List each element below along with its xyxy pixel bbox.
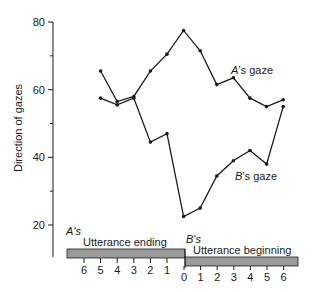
- y-tick-label: 20: [33, 219, 45, 231]
- x-tick-label: 0: [181, 271, 187, 283]
- x-tick-label: 4: [247, 271, 253, 283]
- y-tick-label: 60: [33, 84, 45, 96]
- data-point: [265, 162, 269, 166]
- data-point: [149, 69, 153, 73]
- y-axis: 20406080 Direction of gazes: [12, 16, 53, 257]
- utterance-timeline: A's Utterance ending B's Utterance begin…: [65, 225, 298, 283]
- b-segment-label: Utterance beginning: [193, 244, 291, 256]
- data-point: [232, 76, 236, 80]
- x-tick-label: 6: [281, 271, 287, 283]
- data-point: [248, 149, 252, 153]
- data-point: [115, 103, 119, 107]
- series-label-b-speaker: B: [235, 170, 242, 182]
- a-segment-label: Utterance ending: [83, 236, 167, 248]
- data-point: [115, 100, 119, 104]
- b-utterance-beginning-bar: [185, 257, 298, 266]
- gaze-direction-chart: 20406080 Direction of gazes A’s gaze B’s…: [0, 0, 315, 292]
- x-tick-label: 2: [147, 264, 153, 276]
- data-point: [198, 49, 202, 53]
- data-point: [165, 52, 169, 56]
- data-point: [132, 96, 136, 100]
- series-layer: [99, 29, 285, 219]
- data-point: [248, 96, 252, 100]
- x-tick-label: 4: [114, 264, 120, 276]
- x-tick-label: 6: [81, 264, 87, 276]
- data-point: [281, 105, 285, 109]
- data-point: [232, 159, 236, 163]
- data-point: [281, 98, 285, 102]
- x-tick-label: 3: [231, 271, 237, 283]
- x-tick-label: 2: [214, 271, 220, 283]
- data-point: [149, 140, 153, 144]
- data-point: [182, 215, 186, 219]
- series-label-a-rest: ’s gaze: [238, 64, 273, 76]
- b-gaze-line: [101, 98, 284, 216]
- x-tick-label: 5: [264, 271, 270, 283]
- x-tick-label: 1: [198, 271, 204, 283]
- data-point: [215, 83, 219, 87]
- a-speaker-label: A's: [65, 225, 81, 237]
- data-point: [265, 105, 269, 109]
- y-tick-label: 40: [33, 151, 45, 163]
- data-point: [165, 132, 169, 136]
- series-label-b-rest: ’s gaze: [242, 170, 277, 182]
- data-point: [215, 174, 219, 178]
- series-label-b: B’s gaze: [235, 170, 277, 182]
- series-label-a: A’s gaze: [230, 64, 273, 76]
- y-axis-title: Direction of gazes: [12, 83, 24, 172]
- data-point: [182, 29, 186, 33]
- data-point: [99, 69, 103, 73]
- x-tick-label: 5: [98, 264, 104, 276]
- series-label-a-speaker: A: [230, 64, 238, 76]
- x-tick-label: 3: [131, 264, 137, 276]
- data-point: [99, 96, 103, 100]
- data-point: [198, 206, 202, 210]
- x-tick-label: 1: [164, 264, 170, 276]
- y-tick-label: 80: [33, 16, 45, 28]
- a-utterance-ending-bar: [67, 249, 185, 258]
